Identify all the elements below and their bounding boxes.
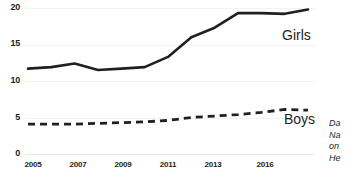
x-tick-label: 2007 [70, 160, 87, 169]
x-tick-label: 2011 [160, 160, 177, 169]
source-note-line: Da [329, 118, 353, 130]
series-line-boys [28, 109, 308, 124]
x-tick-label: 2013 [205, 160, 222, 169]
line-chart: 20 15 10 5 0 2005 2007 2009 2011 2013 20… [0, 0, 353, 177]
source-note-line: Na [329, 130, 353, 142]
x-tick-label: 2009 [115, 160, 132, 169]
y-axis: 20 15 10 5 0 [0, 0, 24, 162]
y-tick-label: 0 [15, 149, 20, 158]
x-tick-label: 2005 [25, 160, 42, 169]
y-tick-label: 20 [10, 3, 20, 12]
source-note-line: He [329, 153, 353, 165]
y-tick-label: 10 [10, 76, 20, 85]
series-label-boys: Boys [284, 112, 315, 126]
x-axis: 2005 2007 2009 2011 2013 2016 [25, 160, 315, 174]
y-tick-label: 15 [10, 39, 20, 48]
source-note: Da Na on He [329, 118, 353, 164]
y-tick-label: 5 [15, 113, 20, 122]
plot-area [25, 8, 315, 154]
gridline-0 [25, 154, 315, 155]
series-label-girls: Girls [282, 28, 311, 42]
series-paths [25, 8, 315, 154]
x-tick-label: 2016 [257, 160, 274, 169]
series-line-girls [28, 9, 308, 70]
source-note-line: on [329, 141, 353, 153]
